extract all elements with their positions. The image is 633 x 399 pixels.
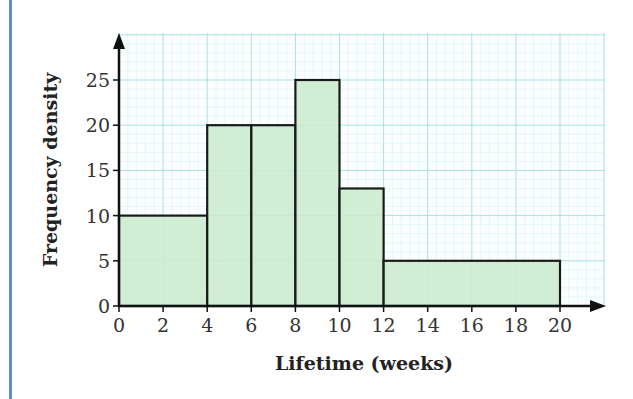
y-axis-label: Frequency density — [39, 72, 61, 267]
y-tick-label: 10 — [86, 205, 110, 227]
histogram-bar — [251, 125, 295, 306]
x-tick-label: 20 — [548, 314, 572, 336]
x-tick-label: 10 — [327, 314, 351, 336]
x-tick-label: 6 — [245, 314, 257, 336]
histogram-bar — [340, 188, 384, 306]
x-tick-label: 18 — [504, 314, 528, 336]
histogram-bar — [384, 261, 560, 306]
x-tick-label: 16 — [460, 314, 484, 336]
y-tick-label: 0 — [98, 295, 110, 317]
histogram-chart: 02468101214161820 0510152025 Lifetime (w… — [0, 0, 633, 399]
x-ticks: 02468101214161820 — [113, 306, 572, 336]
x-tick-label: 8 — [289, 314, 301, 336]
y-ticks: 0510152025 — [86, 69, 119, 317]
x-tick-label: 2 — [157, 314, 169, 336]
y-tick-label: 15 — [86, 159, 110, 181]
x-tick-label: 0 — [113, 314, 125, 336]
histogram-bar — [207, 125, 251, 306]
histogram-bar — [119, 216, 207, 306]
x-tick-label: 14 — [416, 314, 440, 336]
histogram-bar — [295, 80, 339, 306]
y-tick-label: 20 — [86, 114, 110, 136]
x-tick-label: 4 — [201, 314, 213, 336]
x-tick-label: 12 — [372, 314, 396, 336]
y-tick-label: 5 — [98, 250, 110, 272]
y-tick-label: 25 — [86, 69, 110, 91]
x-axis-label: Lifetime (weeks) — [275, 352, 453, 374]
